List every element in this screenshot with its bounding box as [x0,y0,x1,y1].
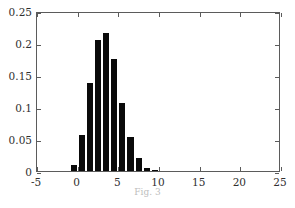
histogram-bar [86,83,94,171]
y-axis-tick-right [275,141,279,142]
y-axis-tick-label: 0.2 [0,39,32,50]
histogram-bar [135,158,143,171]
x-axis-tick [240,167,241,171]
y-axis-tick [37,45,41,46]
x-axis-tick-label: 0 [62,177,92,188]
y-axis-tick-label: 0.05 [0,135,32,146]
y-axis-tick-right [275,77,279,78]
x-axis-tick [159,167,160,171]
x-axis-tick-label: 15 [184,177,214,188]
x-axis-tick-label: 10 [143,177,173,188]
y-axis-tick [37,109,41,110]
x-axis-tick [200,167,201,171]
x-axis-tick-label: 5 [102,177,132,188]
histogram-bar [151,170,159,171]
x-axis-tick-top [200,13,201,17]
histogram-bar [110,59,118,171]
figure-caption: Fig. 3 [0,188,295,197]
histogram-bar [78,135,86,171]
x-axis-tick [78,167,79,171]
histogram-bar [102,33,110,171]
y-axis-tick [37,141,41,142]
x-axis-tick-label: 20 [224,177,254,188]
histogram-bar [143,168,151,171]
y-axis-tick-label: 0.1 [0,103,32,114]
histogram-figure: 00.050.10.150.20.25 -50510152025 Fig. 3 [0,0,295,208]
y-axis-tick [37,77,41,78]
x-axis-tick-label: 25 [265,177,295,188]
y-axis-tick-right [275,173,279,174]
y-axis-tick-right [275,109,279,110]
x-axis-tick [281,167,282,171]
histogram-bar [118,103,126,171]
x-axis-tick-top [78,13,79,17]
bars-layer [37,13,279,171]
x-axis-tick [37,167,38,171]
x-axis-tick-label: -5 [21,177,51,188]
plot-area [36,12,280,172]
y-axis-tick-right [275,45,279,46]
x-axis-tick-top [159,13,160,17]
y-axis-tick-label: 0 [0,167,32,178]
x-axis-tick-top [240,13,241,17]
histogram-bar [70,165,78,171]
y-axis-tick-label: 0.25 [0,7,32,18]
x-axis-tick [118,167,119,171]
x-axis-tick-top [281,13,282,17]
histogram-bar [94,40,102,171]
histogram-bar [126,137,134,171]
y-axis-tick-label: 0.15 [0,71,32,82]
y-axis-tick-right [275,13,279,14]
x-axis-tick-top [37,13,38,17]
y-axis-tick [37,173,41,174]
x-axis-tick-top [118,13,119,17]
